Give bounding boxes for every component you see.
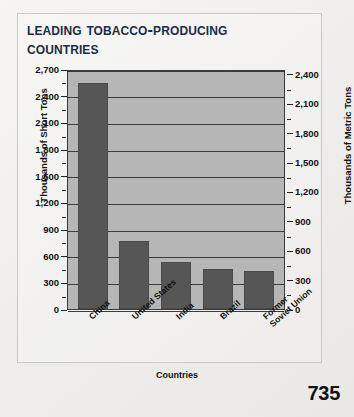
y-tick-mark-right [287,163,293,164]
y-tick-label-left: 2,100 [15,117,59,128]
y-tick-label-left: 600 [15,251,59,262]
y-minor-tick-left [62,270,66,271]
y-tick-label-right: 600 [295,245,339,256]
y-minor-tick-left [62,217,66,218]
bar-brazil[interactable] [203,269,233,309]
bar-china[interactable] [78,83,108,309]
y-axis-label-right: Thousands of Metric Tons [342,61,353,231]
y-tick-mark-right [287,133,293,134]
plot-area [67,70,285,310]
y-tick-label-left: 2,400 [15,91,59,102]
y-tick-mark-right [287,251,293,252]
bar-series [68,71,284,309]
x-axis-label: Countries [0,370,354,380]
bar-former-soviet-union[interactable] [244,271,274,309]
y-tick-label-right: 1,500 [295,157,339,168]
y-tick-label-left: 1,800 [15,144,59,155]
y-tick-label-right: 1,800 [295,128,339,139]
y-tick-mark-right [287,280,293,281]
page-background: Leading Tobacco-Producing Countries Thou… [0,0,354,417]
page-number: 735 [308,382,340,405]
y-tick-label-right: 1,200 [295,186,339,197]
y-tick-label-left: 300 [15,277,59,288]
chart-figure: Thousands of Short Tons Thousands of Met… [0,0,354,417]
y-tick-label-right: 900 [295,216,339,227]
y-minor-tick-left [62,297,66,298]
y-minor-tick-left [62,110,66,111]
y-tick-label-right: 2,400 [295,69,339,80]
y-minor-tick-right [287,148,291,149]
y-tick-label-left: 1,200 [15,197,59,208]
y-minor-tick-right [287,90,291,91]
y-tick-mark-right [287,221,293,222]
y-tick-mark-right [287,104,293,105]
y-minor-tick-right [287,178,291,179]
y-tick-label-right: 2,100 [295,98,339,109]
y-minor-tick-right [287,237,291,238]
y-tick-label-right: 0 [295,304,339,315]
y-minor-tick-right [287,266,291,267]
y-minor-tick-left [62,163,66,164]
y-tick-label-left: 0 [15,304,59,315]
y-tick-label-left: 900 [15,224,59,235]
y-tick-label-left: 2,700 [15,64,59,75]
y-minor-tick-right [287,119,291,120]
y-minor-tick-left [62,83,66,84]
y-minor-tick-left [62,243,66,244]
y-tick-mark-right [287,74,293,75]
y-minor-tick-left [62,137,66,138]
y-tick-mark-right [287,192,293,193]
y-tick-label-left: 1,500 [15,171,59,182]
y-minor-tick-right [287,207,291,208]
y-minor-tick-left [62,190,66,191]
